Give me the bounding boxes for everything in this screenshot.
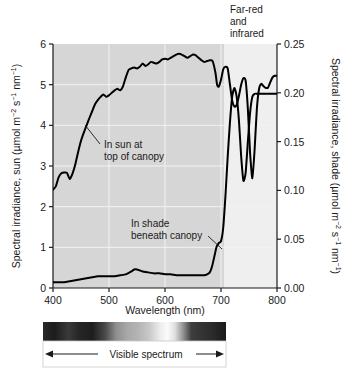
y-right-tick-label: 0.05 [284,233,305,245]
y-left-tick-label: 2 [40,201,46,213]
figure-root: 0123456 0.000.050.100.150.200.25 4005006… [0,0,346,378]
in-sun-line2: top of canopy [104,151,164,162]
y-right-tick-label: 0.15 [284,136,305,148]
y-axis-left-ticks: 0123456 [40,38,53,294]
x-tick-label: 500 [100,294,118,306]
in-shade-line2: beneath canopy [131,230,202,241]
arrow-head-left-icon [45,351,53,358]
y-right-tick-label: 0.20 [284,87,305,99]
y-right-tick-label: 0.10 [284,184,305,196]
y-left-tick-label: 5 [40,79,46,91]
y-left-tick-label: 4 [40,119,46,131]
far-red-line2: and [230,16,247,27]
y-axis-left-title: Spectral irradiance, sun (µmol m−2 s−1 n… [10,64,22,269]
arrow-head-right-icon [216,351,224,358]
visible-spectrum-bar [43,322,226,341]
in-shade-line1: In shade [131,218,170,229]
far-red-infrared-annotation: Far-red and infrared [230,4,264,39]
y-left-tick-label: 3 [40,160,46,172]
far-red-line1: Far-red [230,4,263,15]
visible-spectrum-arrow-row: Visible spectrum [45,349,224,360]
svg-text:Spectral irradiance, shade (µm: Spectral irradiance, shade (µmol m−2 s−1… [330,58,342,274]
y-left-tick-label: 0 [40,282,46,294]
in-sun-line1: In sun at [104,139,143,150]
x-tick-label: 400 [44,294,62,306]
x-axis-title: Wavelength (nm) [125,304,205,316]
far-red-line3: infrared [230,28,264,39]
svg-text:Spectral irradiance, sun (µmol: Spectral irradiance, sun (µmol m−2 s−1 n… [10,64,22,269]
y-left-tick-label: 1 [40,241,46,253]
y-axis-right-ticks: 0.000.050.100.150.200.25 [277,38,305,294]
x-tick-label: 700 [212,294,230,306]
y-axis-right-title: Spectral irradiance, shade (µmol m−2 s−1… [330,58,342,274]
x-tick-label: 800 [268,294,286,306]
y-right-tick-label: 0.00 [284,282,305,294]
spectral-irradiance-chart: 0123456 0.000.050.100.150.200.25 4005006… [0,0,346,378]
y-left-tick-label: 6 [40,38,46,50]
y-right-tick-label: 0.25 [284,38,305,50]
visible-spectrum-label: Visible spectrum [109,349,182,360]
